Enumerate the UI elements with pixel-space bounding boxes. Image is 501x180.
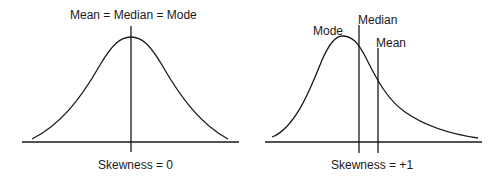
right-skewness-label: Skewness = +1 <box>331 159 413 171</box>
left-skewness-label: Skewness = 0 <box>98 159 173 171</box>
mean-label: Mean <box>376 37 406 49</box>
skewness-diagram <box>0 0 501 180</box>
mode-label: Mode <box>313 25 343 37</box>
median-label: Median <box>358 14 397 26</box>
left-top-label: Mean = Median = Mode <box>70 9 197 21</box>
right-skewed-curve <box>272 36 478 138</box>
left-symmetric-curve <box>32 37 228 139</box>
